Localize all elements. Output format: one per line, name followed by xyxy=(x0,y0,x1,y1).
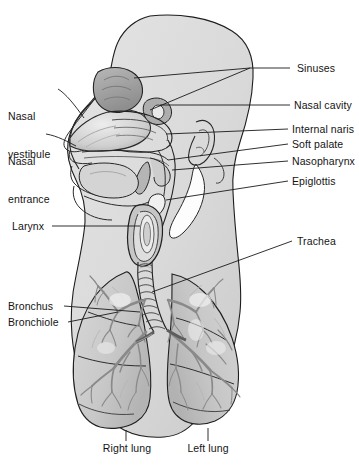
label-trachea: Trachea xyxy=(297,235,336,248)
respiratory-system-figure: Nasal vestibule Nasal entrance Larynx Br… xyxy=(0,0,359,465)
label-soft-palate: Soft palate xyxy=(292,138,343,151)
label-left-lung: Left lung xyxy=(176,442,240,455)
label-nasopharynx: Nasopharynx xyxy=(292,155,355,168)
label-larynx: Larynx xyxy=(12,220,44,233)
label-nasal-entrance: Nasal entrance xyxy=(8,130,50,230)
label-nasal-vestibule-line1: Nasal xyxy=(8,110,50,123)
label-nasal-cavity: Nasal cavity xyxy=(294,99,352,112)
label-bronchiole: Bronchiole xyxy=(8,316,59,329)
label-sinuses: Sinuses xyxy=(297,62,335,75)
label-epiglottis: Epiglottis xyxy=(292,175,336,188)
label-bronchus: Bronchus xyxy=(8,300,53,313)
label-right-lung: Right lung xyxy=(92,442,162,455)
label-nasal-entrance-line2: entrance xyxy=(8,193,50,206)
label-nasal-entrance-line1: Nasal xyxy=(8,155,50,168)
label-internal-naris: Internal naris xyxy=(292,123,354,136)
